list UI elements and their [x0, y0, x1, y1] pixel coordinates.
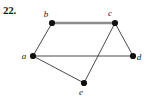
- graph-edge-ae: [33, 56, 84, 83]
- graph-diagram: abcde: [0, 0, 149, 106]
- graph-vertex-d: [130, 53, 136, 59]
- graph-vertex-label-d: d: [137, 52, 142, 62]
- graph-vertex-label-b: b: [44, 9, 49, 19]
- graph-vertex-label-e: e: [79, 87, 83, 97]
- graph-edge-cd: [115, 23, 133, 56]
- graph-edges-group: [33, 23, 133, 83]
- graph-vertex-label-a: a: [22, 51, 27, 61]
- graph-vertex-b: [49, 20, 55, 26]
- graph-edge-ce: [84, 23, 115, 83]
- graph-vertex-c: [112, 20, 118, 26]
- figure-container: 22. abcde: [0, 0, 149, 106]
- graph-vertex-e: [81, 80, 87, 86]
- graph-vertices-group: [30, 20, 136, 86]
- graph-vertex-label-c: c: [108, 8, 112, 18]
- graph-edge-ab: [33, 23, 52, 56]
- graph-vertex-a: [30, 53, 36, 59]
